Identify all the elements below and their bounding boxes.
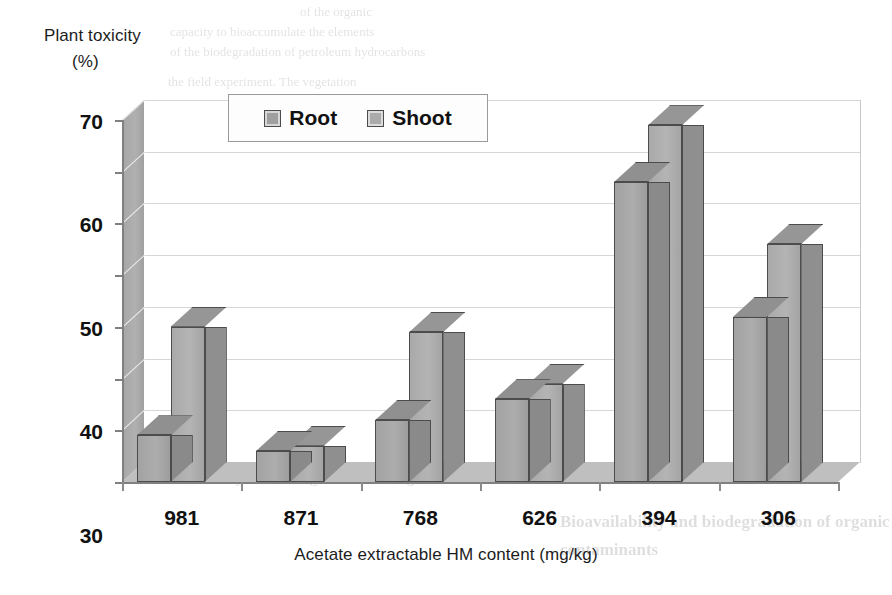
bar-side-face (767, 317, 789, 482)
chart-3d-column: Plant toxicity (%) Acetate extractable H… (0, 0, 892, 595)
x-axis-tick (361, 482, 363, 491)
bar-side-face (563, 384, 585, 482)
bar-root-768[interactable] (375, 400, 431, 482)
x-axis-tick-label-394: 394 (641, 506, 676, 530)
bar-top-face (614, 162, 670, 182)
x-axis-tick-label-306: 306 (761, 506, 796, 530)
legend-swatch-root-icon (264, 110, 281, 127)
x-axis-title: Acetate extractable HM content (mg/kg) (0, 545, 892, 565)
legend-label: Shoot (392, 106, 451, 130)
bar-top-face (767, 224, 823, 244)
y-axis-tick-label: 60 (80, 213, 103, 237)
bar-side-face (409, 420, 431, 482)
x-axis-tick (122, 482, 124, 491)
y-axis-tick: 10 (115, 430, 122, 432)
chart-legend[interactable]: RootShoot (228, 94, 488, 142)
bar-front-face (733, 317, 767, 482)
y-axis-tick: 40 (115, 275, 122, 277)
x-axis-tick (838, 482, 840, 491)
bar-top-face (409, 312, 465, 332)
bar-top-face (733, 297, 789, 317)
bar-side-face (529, 399, 551, 482)
bar-side-face (205, 327, 227, 482)
y-axis-tick-label: 70 (80, 110, 103, 134)
bar-top-face (375, 400, 431, 420)
bar-top-face (137, 415, 193, 435)
bar-side-face (682, 125, 704, 482)
y-axis-tick: 60 (115, 172, 122, 174)
y-axis-tick-label: 50 (80, 317, 103, 341)
gridline (144, 152, 860, 153)
bar-root-871[interactable] (256, 431, 312, 482)
bar-side-face (290, 451, 312, 482)
x-axis-tick (719, 482, 721, 491)
gridline (144, 255, 860, 256)
x-axis-tick-label-871: 871 (283, 506, 318, 530)
gridline (144, 203, 860, 204)
plot-area: 010203040506070 981871768626394306 (122, 120, 838, 482)
y-axis-tick: 70 (115, 120, 122, 122)
legend-swatch-shoot-icon (367, 110, 384, 127)
x-axis-tick-label-626: 626 (522, 506, 557, 530)
y-axis-tick: 50 (115, 223, 122, 225)
bar-front-face (256, 451, 290, 482)
bar-top-face (171, 307, 227, 327)
bar-top-face (495, 379, 551, 399)
y-axis-tick: 30 (115, 327, 122, 329)
y-axis-line (122, 120, 124, 482)
bar-side-face (648, 182, 670, 482)
y-axis-tick: 20 (115, 379, 122, 381)
bar-front-face (614, 182, 648, 482)
bar-front-face (137, 435, 171, 482)
bar-root-394[interactable] (614, 162, 670, 482)
bar-top-face (648, 105, 704, 125)
bar-root-626[interactable] (495, 379, 551, 482)
bar-front-face (375, 420, 409, 482)
y-axis-title-line2: (%) (72, 52, 99, 72)
y-axis-tick-label: 30 (80, 524, 103, 548)
legend-item-root[interactable]: Root (264, 106, 337, 130)
bar-root-306[interactable] (733, 297, 789, 482)
y-axis-tick: 0 (115, 482, 122, 484)
bar-root-981[interactable] (137, 415, 193, 482)
y-axis-title-line1: Plant toxicity (44, 26, 141, 46)
bar-side-face (324, 446, 346, 482)
bar-side-face (171, 435, 193, 482)
bar-side-face (801, 244, 823, 482)
x-axis-tick-label-768: 768 (403, 506, 438, 530)
bar-side-face (443, 332, 465, 482)
x-axis-tick-label-981: 981 (164, 506, 199, 530)
x-axis-tick (241, 482, 243, 491)
x-axis-tick (480, 482, 482, 491)
x-axis-tick (599, 482, 601, 491)
y-axis-tick-label: 40 (80, 420, 103, 444)
legend-label: Root (289, 106, 337, 130)
bar-top-face (256, 431, 312, 451)
legend-item-shoot[interactable]: Shoot (367, 106, 451, 130)
bar-front-face (495, 399, 529, 482)
